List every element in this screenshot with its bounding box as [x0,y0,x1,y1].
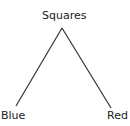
edge-root-to-blue [16,28,62,106]
right-child-label: Red [107,110,128,122]
tree-diagram: Squares Blue Red [0,0,130,126]
root-node-label: Squares [42,10,86,22]
left-child-label: Blue [1,110,25,122]
edge-root-to-red [62,28,111,108]
